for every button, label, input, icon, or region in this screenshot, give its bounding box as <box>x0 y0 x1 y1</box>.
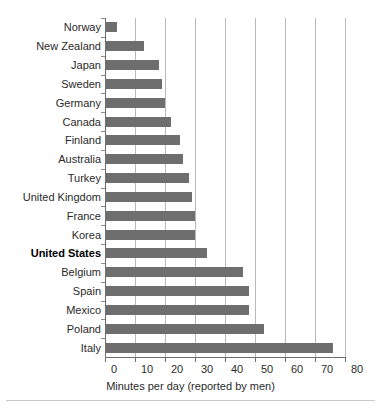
bar-series <box>105 18 345 357</box>
bar-germany <box>105 98 165 108</box>
x-tick-10 <box>135 357 136 362</box>
bar-row <box>105 117 345 127</box>
x-tick-label-10: 10 <box>141 363 153 375</box>
bar-row <box>105 79 345 89</box>
x-tick-label-60: 60 <box>291 363 303 375</box>
category-tick <box>101 263 105 264</box>
x-tick-30 <box>195 357 196 362</box>
bar-italy <box>105 343 333 353</box>
bar-australia <box>105 154 183 164</box>
x-tick-label-80: 80 <box>351 363 363 375</box>
x-tick-20 <box>165 357 166 362</box>
bar-row <box>105 41 345 51</box>
category-tick <box>101 206 105 207</box>
bar-korea <box>105 230 195 240</box>
bar-belgium <box>105 267 243 277</box>
x-tick-80 <box>345 357 346 362</box>
bar-row <box>105 305 345 315</box>
bar-new-zealand <box>105 41 144 51</box>
bar-poland <box>105 324 264 334</box>
category-tick <box>101 150 105 151</box>
category-tick <box>101 112 105 113</box>
category-tick <box>101 18 105 19</box>
x-tick-label-30: 30 <box>201 363 213 375</box>
category-tick <box>101 93 105 94</box>
category-tick <box>101 131 105 132</box>
category-tick <box>101 338 105 339</box>
bar-row <box>105 267 345 277</box>
plot-area <box>105 18 345 357</box>
bar-row <box>105 98 345 108</box>
bar-united-states <box>105 248 207 258</box>
bar-row <box>105 230 345 240</box>
category-tick <box>101 319 105 320</box>
x-tick-60 <box>285 357 286 362</box>
bar-row <box>105 286 345 296</box>
bar-united-kingdom <box>105 192 192 202</box>
category-label-united-kingdom: United Kingdom <box>23 191 101 203</box>
bar-row <box>105 60 345 70</box>
category-tick <box>101 75 105 76</box>
x-tick-label-20: 20 <box>171 363 183 375</box>
bar-finland <box>105 135 180 145</box>
x-axis-title: Minutes per day (reported by men) <box>0 380 381 393</box>
bar-spain <box>105 286 249 296</box>
category-label-new-zealand: New Zealand <box>36 40 101 52</box>
category-label-norway: Norway <box>64 21 101 33</box>
footer-divider <box>6 400 375 401</box>
bar-row <box>105 324 345 334</box>
category-label-mexico: Mexico <box>66 304 101 316</box>
category-tick <box>101 225 105 226</box>
category-label-canada: Canada <box>62 116 101 128</box>
category-label-finland: Finland <box>65 134 101 146</box>
x-tick-label-70: 70 <box>321 363 333 375</box>
category-tick <box>101 56 105 57</box>
category-label-italy: Italy <box>81 342 101 354</box>
bar-row <box>105 22 345 32</box>
bar-row <box>105 343 345 353</box>
bar-row <box>105 192 345 202</box>
category-label-sweden: Sweden <box>61 78 101 90</box>
x-tick-50 <box>255 357 256 362</box>
category-tick <box>101 37 105 38</box>
bar-mexico <box>105 305 249 315</box>
bar-row <box>105 248 345 258</box>
category-label-japan: Japan <box>71 59 101 71</box>
bar-chart: NorwayNew ZealandJapanSwedenGermanyCanad… <box>0 0 381 411</box>
bar-canada <box>105 117 171 127</box>
x-tick-label-40: 40 <box>231 363 243 375</box>
bar-sweden <box>105 79 162 89</box>
category-label-australia: Australia <box>58 153 101 165</box>
category-label-turkey: Turkey <box>68 172 101 184</box>
bar-turkey <box>105 173 189 183</box>
bar-row <box>105 135 345 145</box>
category-tick <box>101 301 105 302</box>
x-tick-label-50: 50 <box>261 363 273 375</box>
bar-row <box>105 154 345 164</box>
category-tick <box>101 169 105 170</box>
x-tick-70 <box>315 357 316 362</box>
category-label-germany: Germany <box>56 97 101 109</box>
bar-france <box>105 211 195 221</box>
category-label-korea: Korea <box>72 229 101 241</box>
category-label-spain: Spain <box>73 285 101 297</box>
x-tick-label-0: 0 <box>111 363 117 375</box>
category-axis-labels: NorwayNew ZealandJapanSwedenGermanyCanad… <box>0 18 101 357</box>
bar-row <box>105 173 345 183</box>
category-label-united-states: United States <box>31 247 101 259</box>
category-label-belgium: Belgium <box>61 266 101 278</box>
gridline-80 <box>345 18 346 357</box>
category-tick <box>101 188 105 189</box>
bar-japan <box>105 60 159 70</box>
bar-norway <box>105 22 117 32</box>
category-tick <box>101 244 105 245</box>
x-tick-40 <box>225 357 226 362</box>
bar-row <box>105 211 345 221</box>
category-label-poland: Poland <box>67 323 101 335</box>
x-tick-0 <box>105 357 106 362</box>
category-tick <box>101 282 105 283</box>
category-label-france: France <box>67 210 101 222</box>
